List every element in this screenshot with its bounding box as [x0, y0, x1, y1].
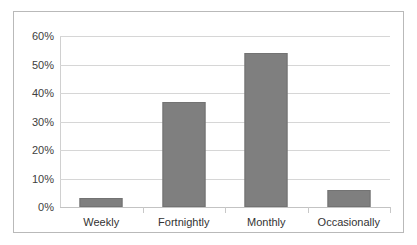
- bar[interactable]: [245, 53, 288, 207]
- x-axis-tick-mark: [390, 207, 391, 213]
- bar[interactable]: [162, 102, 205, 207]
- y-axis-tick-label: 50%: [32, 59, 54, 71]
- x-axis-tick-label: Fortnightly: [158, 216, 209, 228]
- x-axis-tick-mark: [143, 207, 144, 213]
- bar-group: Weekly: [60, 36, 143, 207]
- x-axis-tick-mark: [308, 207, 309, 213]
- plot-area: 0%10%20%30%40%50%60%WeeklyFortnightlyMon…: [60, 36, 390, 207]
- y-axis-tick-label: 0%: [38, 201, 54, 213]
- bar[interactable]: [327, 190, 370, 207]
- bar-group: Monthly: [225, 36, 308, 207]
- chart-frame: 0%10%20%30%40%50%60%WeeklyFortnightlyMon…: [13, 11, 404, 233]
- x-axis-tick-label: Weekly: [83, 216, 119, 228]
- x-axis-tick-label: Monthly: [247, 216, 286, 228]
- bar-group: Fortnightly: [143, 36, 226, 207]
- bar-group: Occasionally: [308, 36, 391, 207]
- y-axis-tick-label: 40%: [32, 87, 54, 99]
- x-axis-tick-mark: [225, 207, 226, 213]
- y-axis-tick-label: 10%: [32, 173, 54, 185]
- x-axis-tick-label: Occasionally: [318, 216, 380, 228]
- y-axis-tick-label: 30%: [32, 116, 54, 128]
- y-axis-tick-label: 60%: [32, 30, 54, 42]
- bar[interactable]: [80, 198, 123, 207]
- y-axis-tick-label: 20%: [32, 144, 54, 156]
